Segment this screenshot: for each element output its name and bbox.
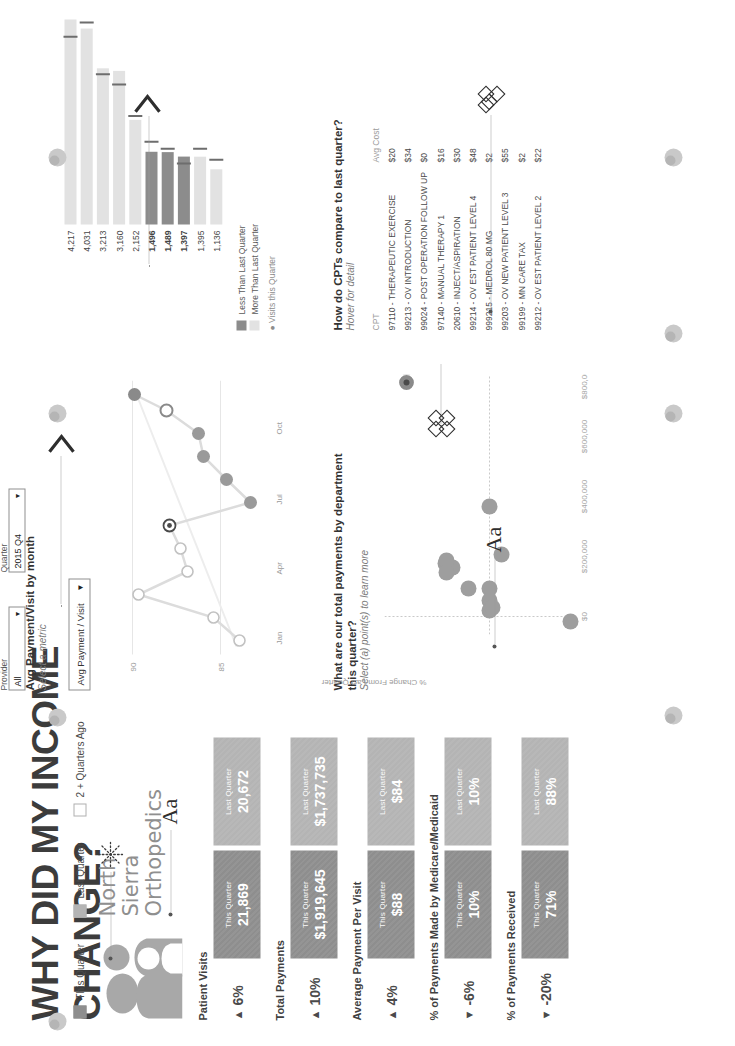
bar-value-label: 1,395: [195, 230, 205, 252]
table-row[interactable]: 99213 - OV INTRODUCTION$34: [399, 12, 415, 330]
legend-swatch-this-quarter: [73, 1005, 86, 1018]
annotation-aa-1[interactable]: Aa: [156, 798, 182, 824]
annotation-sphere-7[interactable]: [660, 144, 686, 170]
kpi-box-label: Last Quarter: [377, 768, 386, 815]
bar-value-label: 1,489: [163, 230, 173, 252]
cpt-subtitle: Hover for detail: [344, 50, 355, 330]
annotation-chevron-1[interactable]: [44, 428, 78, 458]
kpi-delta: ▼-6%: [444, 958, 491, 1020]
annotation-sphere-3[interactable]: [44, 400, 70, 426]
bar[interactable]: [113, 70, 125, 224]
kpi-label: % of Payments Received: [504, 720, 516, 1020]
triangle-up-icon: ▲: [231, 1009, 243, 1020]
annotation-sphere-5[interactable]: [660, 400, 686, 426]
annotation-sphere-1[interactable]: [44, 1008, 70, 1034]
chevron-down-icon[interactable]: ▼: [75, 583, 84, 591]
table-row[interactable]: 97110 - THERAPEUTIC EXERCISE$20: [383, 12, 399, 330]
kpi-box-this-quarter[interactable]: This Quarter $1,919,645: [290, 850, 337, 958]
kpi-box-this-quarter[interactable]: This Quarter 21,869: [213, 850, 260, 958]
kpi-delta-value: -6%: [460, 980, 476, 1005]
practice-name-line-1: North: [96, 666, 119, 916]
bar[interactable]: [129, 119, 141, 224]
kpi-box-this-quarter[interactable]: This Quarter $88: [367, 850, 414, 958]
filter-quarter-value: 2015 Q4: [12, 499, 22, 568]
annotation-sphere-6[interactable]: [660, 702, 686, 728]
filter-quarter-label: Quarter: [0, 488, 8, 572]
filter-quarter[interactable]: Quarter 2015 Q4 ▼: [0, 488, 25, 572]
annotation-sphere-8[interactable]: [660, 320, 686, 346]
kpi-label: Average Payment Per Visit: [350, 720, 362, 1020]
table-row[interactable]: 97140 - MANUAL THERAPY 1$16: [432, 12, 448, 330]
legend-item-last-quarter: Last Quarter: [73, 842, 86, 917]
annotation-sphere-4[interactable]: [44, 144, 70, 170]
metric-select[interactable]: Avg Payment / Visit ▼: [68, 578, 90, 690]
table-row[interactable]: 20610 - INJECT/ASPIRATION$30: [448, 12, 464, 330]
asterisk-icon[interactable]: [96, 840, 124, 868]
table-row[interactable]: 99212 - OV EST PATIENT LEVEL 2$22: [529, 12, 545, 330]
bar[interactable]: [64, 19, 76, 224]
svg-text:85: 85: [216, 661, 225, 670]
bar[interactable]: [210, 169, 222, 224]
cpt-cell-code: 99212 - OV EST PATIENT LEVEL 2: [532, 162, 542, 330]
bar[interactable]: [177, 156, 189, 224]
kpi-delta-value: -20%: [537, 972, 553, 1005]
kpi-box-this-quarter[interactable]: This Quarter 71%: [521, 850, 568, 958]
table-row[interactable]: 99024 - POST OPERATION FOLLOW UP$0: [415, 12, 431, 330]
kpi-box-label: Last Quarter: [300, 768, 309, 815]
kpi-box-value: $84: [388, 779, 404, 802]
annotation-quatrefoil-1[interactable]: [424, 406, 458, 440]
kpi-delta: ▲10%: [290, 958, 337, 1020]
kpi-pct-payments-medicare-medicaid: % of Payments Made by Medicare/Medicaid …: [427, 720, 491, 1020]
legend-label-older-quarters: 2 + Quarters Ago: [74, 721, 85, 797]
cpt-table[interactable]: CPT Avg Cost 97110 - THERAPEUTIC EXERCIS…: [370, 12, 545, 330]
table-row[interactable]: 99199 - MN CARE TAX$2: [513, 12, 529, 330]
bar[interactable]: [194, 156, 206, 224]
kpi-box-last-quarter[interactable]: Last Quarter 20,672: [213, 737, 260, 845]
table-row[interactable]: 99214 - OV EST PATIENT LEVEL 4$48: [464, 12, 480, 330]
bar-legend-label-more: More Than Last Quarter: [249, 223, 259, 314]
kpi-box-label: This Quarter: [300, 881, 309, 928]
cpt-cell-cost: $30: [451, 122, 461, 162]
bar-legend-label-less: Less Than Last Quarter: [236, 225, 246, 314]
kpi-label: Patient Visits: [196, 720, 208, 1020]
bar[interactable]: [145, 151, 157, 224]
kpi-box-value: 71%: [542, 890, 558, 918]
dashboard-root: WHY DID MY INCOME CHANGE? This Quarter L…: [0, 0, 735, 1046]
bar[interactable]: [80, 28, 92, 224]
line-chart-plot[interactable]: 90 85 Jan Apr Jul Oct: [108, 380, 288, 680]
kpi-box-label: This Quarter: [454, 881, 463, 928]
kpi-delta: ▲6%: [213, 958, 260, 1020]
kpi-box-this-quarter[interactable]: This Quarter 10%: [444, 850, 491, 958]
annotation-quatrefoil-2[interactable]: [474, 82, 508, 116]
bar-legend-swatch-less: [236, 320, 246, 330]
table-row[interactable]: 999215 - MEDROL 80 MG$2: [480, 12, 496, 330]
scatter-title: What are our total payments by departmen…: [330, 450, 358, 690]
practice-name-line-2: Sierra: [119, 666, 142, 916]
kpi-box-value: 21,869: [234, 883, 250, 926]
kpi-box-last-quarter[interactable]: Last Quarter $1,737,735: [290, 737, 337, 845]
annotation-chevron-2[interactable]: [130, 88, 164, 118]
chevron-down-icon[interactable]: ▼: [13, 610, 20, 617]
annotation-sphere-2[interactable]: [44, 704, 70, 730]
cpt-table-header: CPT Avg Cost: [370, 12, 383, 330]
svg-text:Jul: Jul: [274, 494, 283, 504]
kpi-box-last-quarter[interactable]: Last Quarter 88%: [521, 737, 568, 845]
kpi-box-last-quarter[interactable]: Last Quarter $84: [367, 737, 414, 845]
chevron-down-icon[interactable]: ▼: [13, 492, 20, 499]
filter-provider[interactable]: Provider All ▼: [0, 606, 25, 690]
cpt-cell-cost: $34: [402, 122, 412, 162]
bar-axis-dot-icon: ●: [266, 323, 276, 331]
bar[interactable]: [161, 152, 173, 224]
bar-value-label: 4,031: [82, 230, 92, 252]
kpi-box-last-quarter[interactable]: Last Quarter 10%: [444, 737, 491, 845]
table-row[interactable]: 99203 - OV NEW PATIENT LEVEL 3$55: [496, 12, 512, 330]
filter-bar: Provider All ▼ Quarter 2015 Q4 ▼: [0, 390, 24, 690]
bar[interactable]: [96, 68, 108, 224]
bar-value-label: 4,217: [66, 230, 76, 252]
bar-value-label: 1,136: [211, 230, 221, 252]
callout-line-practice: [110, 872, 111, 958]
kpi-total-payments: Total Payments ▲10% This Quarter $1,919,…: [273, 720, 337, 1020]
scatter-plot[interactable]: 40% 20% 0% -20% -40% $0 $200,000 $400,00…: [384, 374, 594, 634]
annotation-aa-2[interactable]: Aa: [480, 526, 506, 552]
bar-legend-item-less: Less Than Last Quarter: [236, 223, 246, 330]
